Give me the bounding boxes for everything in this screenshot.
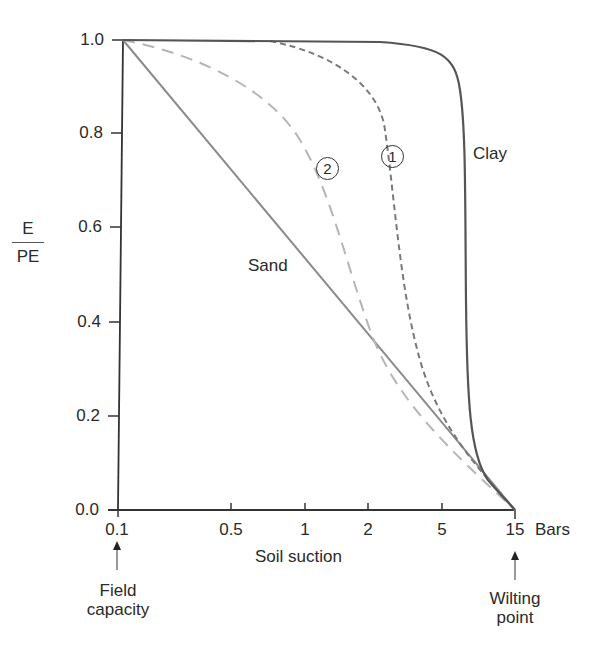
x-tick-label: 15 — [495, 521, 535, 538]
x-tick-label: 1 — [285, 521, 325, 538]
clay-label: Clay — [473, 145, 507, 162]
y-tick-label: 1.0 — [44, 31, 104, 48]
wilting-point-annotation: Wilting point — [475, 590, 555, 627]
field-capacity-annotation: Field capacity — [72, 582, 164, 619]
y-axis-label-denominator: PE — [6, 243, 50, 267]
y-tick-label: 0.4 — [41, 313, 101, 330]
sand-label: Sand — [248, 257, 288, 274]
x-unit-label: Bars — [535, 521, 570, 538]
x-tick-label: 0.5 — [211, 521, 251, 538]
wilting-point-arrow-icon — [511, 551, 519, 580]
curve-1 — [270, 41, 515, 510]
curve-2-marker: 2 — [316, 157, 339, 180]
y-axis-label-numerator: E — [12, 218, 44, 243]
wilting-point-line2: point — [475, 609, 555, 628]
field-capacity-line2: capacity — [72, 601, 164, 620]
y-axis-label: E PE — [6, 218, 50, 268]
curve-1-marker: 1 — [381, 145, 404, 168]
y-tick-label: 0.8 — [43, 124, 103, 141]
x-tick-label: 2 — [348, 521, 388, 538]
x-ticks — [118, 503, 515, 519]
wilting-point-line1: Wilting — [475, 590, 555, 609]
field-capacity-line1: Field — [72, 582, 164, 601]
y-axis — [118, 40, 123, 510]
y-tick-label: 0.0 — [39, 501, 99, 518]
y-tick-label: 0.6 — [42, 218, 102, 235]
x-tick-label: 0.1 — [97, 521, 137, 538]
field-capacity-arrow-icon — [113, 541, 121, 570]
y-tick-label: 0.2 — [40, 407, 100, 424]
x-tick-label: 5 — [422, 521, 462, 538]
x-axis-title: Soil suction — [255, 548, 342, 565]
